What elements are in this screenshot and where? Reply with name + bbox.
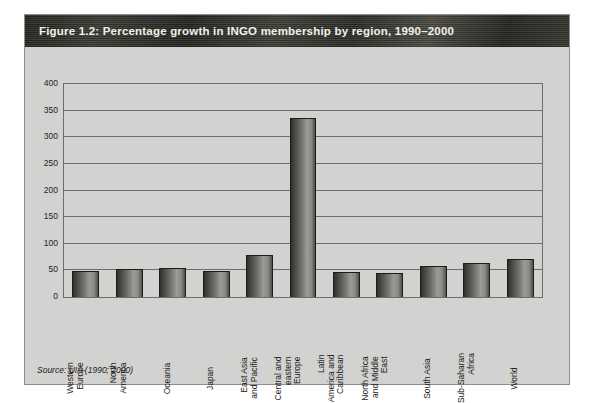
y-tick-label: 200 — [44, 185, 58, 195]
x-tick-label: Oceania — [150, 300, 193, 378]
x-tick-label-text: South Asia — [423, 358, 433, 399]
x-tick-label: Sub-SaharanAfrica — [454, 300, 497, 378]
x-tick-label-text: LatinAmerica andCaribbean — [317, 354, 346, 402]
bar — [507, 259, 534, 297]
bar — [246, 255, 273, 297]
bar — [72, 271, 99, 297]
x-axis-labels: WesternEuropeNorthAmericaOceaniaJapanEas… — [63, 300, 543, 378]
x-tick-label-text: Sub-SaharanAfrica — [457, 353, 476, 403]
y-tick-label: 400 — [44, 78, 58, 88]
bar — [420, 266, 447, 297]
bar — [159, 268, 186, 297]
x-tick-label: South Asia — [411, 300, 454, 378]
y-tick-label: 300 — [44, 131, 58, 141]
bar — [116, 269, 143, 297]
bar — [463, 263, 490, 297]
y-tick-label: 350 — [44, 105, 58, 115]
bar-series — [64, 84, 542, 297]
x-tick-label-text: Japan — [206, 366, 216, 389]
source-note: Source: UIA (1990; 2000) — [37, 365, 133, 375]
x-tick-label-text: East Asiaand Pacific — [240, 357, 259, 399]
x-tick-label: Japan — [193, 300, 236, 378]
bar — [333, 272, 360, 297]
x-tick-label: North Africaand MiddleEast — [367, 300, 410, 378]
figure-title: Figure 1.2: Percentage growth in INGO me… — [39, 25, 454, 37]
x-tick-label-text: Oceania — [162, 362, 172, 394]
bar — [203, 271, 230, 297]
y-tick-label: 50 — [49, 264, 58, 274]
bar — [376, 273, 403, 297]
chart-area: 050100150200250300350400 WesternEuropeNo… — [25, 47, 569, 384]
plot-area — [63, 83, 543, 298]
y-tick-label: 0 — [53, 291, 58, 301]
x-tick-label-text: Central andeasternEurope — [273, 356, 302, 400]
figure-title-band: Figure 1.2: Percentage growth in INGO me… — [25, 15, 569, 47]
y-tick-label: 150 — [44, 211, 58, 221]
figure-container: Figure 1.2: Percentage growth in INGO me… — [24, 14, 570, 385]
x-tick-label-text: North Africaand MiddleEast — [360, 356, 389, 400]
x-tick-label: World — [498, 300, 541, 378]
x-tick-label-text: World — [510, 367, 520, 389]
y-tick-label: 250 — [44, 158, 58, 168]
y-axis-labels: 050100150200250300350400 — [25, 83, 58, 298]
bar — [290, 118, 317, 297]
y-tick-label: 100 — [44, 238, 58, 248]
